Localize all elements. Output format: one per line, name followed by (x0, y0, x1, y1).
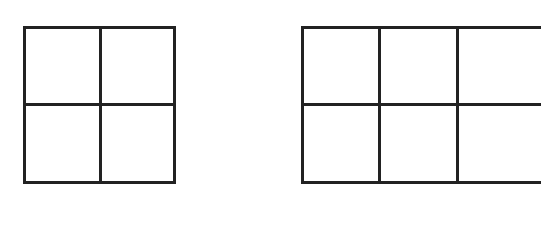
grid-line (378, 26, 381, 184)
grid-line (99, 26, 102, 184)
grid-line (301, 26, 541, 29)
grid-line (301, 181, 541, 184)
grid-2x3 (301, 26, 541, 184)
grid-line (301, 103, 541, 106)
grid-2x2 (23, 26, 176, 184)
grid-line (173, 26, 176, 184)
grid-line (23, 26, 26, 184)
grid-line (301, 26, 304, 184)
grid-line (456, 26, 459, 184)
